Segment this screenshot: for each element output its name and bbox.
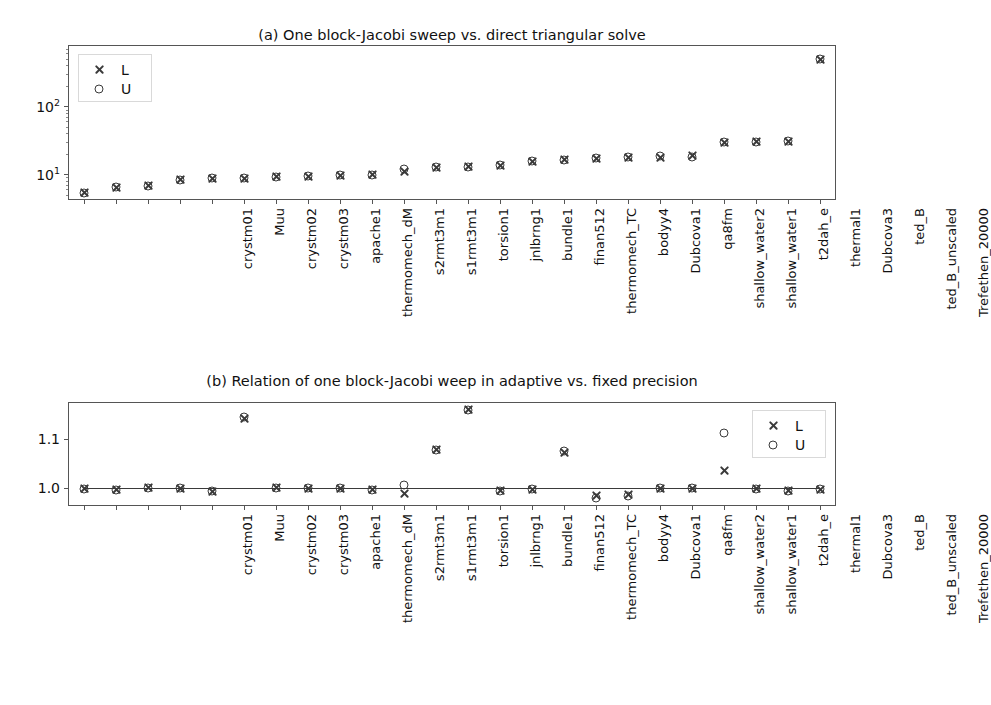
x-axis-tick-mark	[340, 200, 341, 204]
data-point-u	[720, 138, 729, 147]
data-point-l	[719, 465, 730, 476]
data-point-u	[752, 137, 761, 146]
data-point-u	[592, 153, 601, 162]
y-axis-minor-tick	[66, 53, 69, 54]
y-axis-minor-tick	[66, 110, 69, 111]
data-point-u	[240, 413, 249, 422]
x-axis-tick-label: s2rmt3m1	[432, 514, 447, 664]
x-axis-tick-label: bodyy4	[656, 208, 671, 358]
y-axis-minor-tick	[66, 86, 69, 87]
x-axis-tick-label: thermomech_dM	[400, 208, 415, 358]
x-axis-tick-label: thermal1	[848, 208, 863, 358]
x-axis-tick-mark	[148, 200, 149, 204]
x-axis-tick-mark	[276, 506, 277, 510]
legend-marker	[95, 84, 104, 93]
data-point-u	[272, 172, 281, 181]
x-axis-tick-label: Muu	[272, 208, 287, 358]
data-point-u	[432, 445, 441, 454]
panel-a-legend: LU	[78, 54, 152, 102]
x-axis-tick-mark	[660, 506, 661, 510]
y-axis-minor-tick	[66, 133, 69, 134]
data-point-u	[496, 486, 505, 495]
x-axis-tick-label: Trefethen_20000	[976, 514, 991, 664]
x-axis-tick-mark	[468, 506, 469, 510]
x-axis-tick-label: apache1	[368, 208, 383, 358]
x-axis-tick-mark	[820, 200, 821, 204]
data-point-u	[624, 491, 633, 500]
x-axis-tick-label: Dubcova3	[880, 514, 895, 664]
x-axis-tick-mark	[532, 200, 533, 204]
x-axis-tick-label: crystm03	[336, 208, 351, 358]
data-point-u	[624, 153, 633, 162]
x-axis-tick-mark	[596, 200, 597, 204]
legend-marker	[769, 440, 778, 449]
data-point-u	[720, 428, 729, 437]
data-point-u	[208, 174, 217, 183]
x-axis-tick-mark	[436, 506, 437, 510]
x-axis-tick-mark	[84, 506, 85, 510]
x-axis-tick-mark	[564, 200, 565, 204]
data-point-l	[399, 488, 410, 499]
data-point-u	[336, 171, 345, 180]
x-axis-tick-mark	[116, 506, 117, 510]
y-axis-minor-tick	[66, 181, 69, 182]
y-axis-minor-tick	[66, 154, 69, 155]
x-axis-tick-label: crystm01	[240, 514, 255, 664]
x-axis-tick-mark	[628, 200, 629, 204]
x-axis-tick-mark	[500, 200, 501, 204]
x-axis-tick-mark	[596, 506, 597, 510]
x-axis-tick-label: t2dah_e	[816, 514, 831, 664]
y-axis-minor-tick	[66, 189, 69, 190]
x-axis-tick-mark	[628, 506, 629, 510]
y-axis-minor-tick	[66, 177, 69, 178]
x-axis-tick-label: ted_B_unscaled	[944, 514, 959, 664]
x-axis-tick-mark	[724, 200, 725, 204]
data-point-u	[144, 181, 153, 190]
x-axis-tick-label: jnlbrng1	[528, 208, 543, 358]
x-axis-tick-label: crystm02	[304, 208, 319, 358]
x-axis-tick-label: torsion1	[496, 514, 511, 664]
panel-b-data-layer: 1.01.1crystm01Muucrystm02crystm03apache1…	[0, 352, 882, 705]
x-axis-tick-label: thermomech_TC	[624, 208, 639, 358]
x-axis-tick-label: bodyy4	[656, 514, 671, 664]
x-axis-tick-mark	[756, 506, 757, 510]
x-axis-tick-label: shallow_water1	[784, 208, 799, 358]
x-axis-tick-mark	[820, 506, 821, 510]
data-point-u	[560, 155, 569, 164]
x-axis-tick-label: Trefethen_20000	[976, 208, 991, 358]
panel-b: (b) Relation of one block-Jacobi weep in…	[0, 352, 882, 705]
reference-line	[84, 488, 820, 489]
x-axis-tick-mark	[308, 200, 309, 204]
y-axis-minor-tick	[66, 74, 69, 75]
x-axis-tick-label: Dubcova1	[688, 514, 703, 664]
x-axis-tick-label: shallow_water1	[784, 514, 799, 664]
data-point-u	[816, 55, 825, 64]
x-axis-tick-mark	[404, 200, 405, 204]
legend-entry-u: U	[760, 435, 815, 454]
x-axis-tick-label: Dubcova3	[880, 208, 895, 358]
x-axis-tick-label: crystm01	[240, 208, 255, 358]
data-point-u	[592, 494, 601, 503]
x-axis-tick-mark	[724, 506, 725, 510]
y-axis-minor-tick	[66, 185, 69, 186]
data-point-u	[304, 172, 313, 181]
x-axis-tick-mark	[212, 200, 213, 204]
y-axis-minor-tick	[66, 117, 69, 118]
x-axis-tick-label: Muu	[272, 514, 287, 664]
data-point-u	[368, 170, 377, 179]
legend-marker	[94, 64, 105, 75]
x-axis-tick-label: bundle1	[560, 514, 575, 664]
legend-entry-u: U	[86, 79, 141, 98]
x-axis-tick-mark	[308, 506, 309, 510]
data-point-u	[496, 161, 505, 170]
legend-entry-l: L	[760, 416, 815, 435]
panel-a-data-layer: 101102crystm01Muucrystm02crystm03apache1…	[0, 0, 882, 352]
x-axis-tick-mark	[468, 200, 469, 204]
x-axis-tick-mark	[404, 506, 405, 510]
data-point-u	[656, 152, 665, 161]
x-axis-tick-label: thermal1	[848, 514, 863, 664]
x-axis-tick-label: ted_B_unscaled	[944, 208, 959, 358]
x-axis-tick-mark	[788, 200, 789, 204]
x-axis-tick-label: qa8fm	[720, 208, 735, 358]
